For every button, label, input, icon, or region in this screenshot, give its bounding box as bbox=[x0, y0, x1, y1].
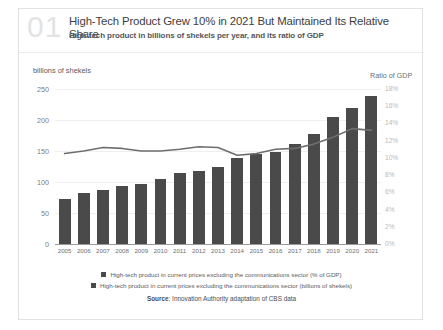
y-axis-title: billions of shekels bbox=[33, 67, 93, 76]
y-axis-tick-label: 50 bbox=[25, 209, 49, 218]
x-axis-tick-label: 2015 bbox=[247, 247, 266, 254]
x-axis-tick-label: 2021 bbox=[362, 247, 381, 254]
x-axis-tick-label: 2007 bbox=[93, 247, 112, 254]
legend-item[interactable]: High-tech product in current prices excl… bbox=[19, 276, 424, 287]
source-note: Source: Innovation Authority adaptation … bbox=[19, 295, 424, 302]
x-axis-tick-label: 2009 bbox=[132, 247, 151, 254]
x-axis-tick-label: 2013 bbox=[208, 247, 227, 254]
y2-axis-tick-label: 14% bbox=[385, 119, 409, 126]
y2-axis-tick-label: 0% bbox=[385, 240, 409, 247]
legend-label: High-tech product in current prices excl… bbox=[100, 282, 352, 289]
x-axis-tick-label: 2006 bbox=[74, 247, 93, 254]
y2-axis-tick-label: 4% bbox=[385, 206, 409, 213]
x-axis-tick-label: 2019 bbox=[323, 247, 342, 254]
x-axis-tick-label: 2017 bbox=[285, 247, 304, 254]
x-axis-tick-label: 2016 bbox=[266, 247, 285, 254]
y2-axis-tick-label: 10% bbox=[385, 154, 409, 161]
x-axis-tick-label: 2012 bbox=[189, 247, 208, 254]
y2-axis-tick-label: 2% bbox=[385, 223, 409, 230]
y-axis-tick-label: 200 bbox=[25, 116, 49, 125]
x-axis-tick-label: 2008 bbox=[113, 247, 132, 254]
legend-swatch-icon bbox=[91, 283, 96, 288]
y-axis-tick-label: 250 bbox=[25, 85, 49, 94]
slide-number: 01 bbox=[27, 12, 62, 42]
y2-axis-tick-label: 12% bbox=[385, 137, 409, 144]
y-axis-tick-label: 100 bbox=[25, 178, 49, 187]
page-subtitle: High-tech product in billions of shekels… bbox=[69, 31, 419, 41]
x-axis-tick-label: 2018 bbox=[304, 247, 323, 254]
line-series bbox=[55, 89, 381, 244]
chart-header: 01 High-Tech Product Grew 10% in 2021 Bu… bbox=[19, 9, 424, 53]
source-prefix: Source bbox=[147, 295, 169, 302]
source-text: Innovation Authority adaptation of CBS d… bbox=[172, 295, 296, 302]
x-axis-line bbox=[55, 244, 381, 245]
legend-item[interactable]: High-tech product in current prices excl… bbox=[19, 265, 424, 276]
x-axis-tick-label: 2005 bbox=[55, 247, 74, 254]
x-axis-tick-label: 2010 bbox=[151, 247, 170, 254]
x-axis-labels: 2005200620072008200920102011201220132014… bbox=[55, 247, 381, 259]
y2-axis-title: Ratio of GDP bbox=[370, 71, 430, 80]
y2-axis-tick-label: 6% bbox=[385, 188, 409, 195]
y2-axis-tick-label: 16% bbox=[385, 102, 409, 109]
x-axis-tick-label: 2020 bbox=[343, 247, 362, 254]
y-axis-tick-label: 150 bbox=[25, 147, 49, 156]
y2-axis-tick-label: 18% bbox=[385, 85, 409, 92]
x-axis-tick-label: 2011 bbox=[170, 247, 189, 254]
chart-legend: High-tech product in current prices excl… bbox=[19, 265, 424, 287]
y-axis-tick-label: 0 bbox=[25, 240, 49, 249]
x-axis-tick-label: 2014 bbox=[228, 247, 247, 254]
y2-axis-tick-label: 8% bbox=[385, 171, 409, 178]
ratio-line bbox=[65, 129, 372, 156]
chart-card: 01 High-Tech Product Grew 10% in 2021 Bu… bbox=[18, 8, 423, 320]
